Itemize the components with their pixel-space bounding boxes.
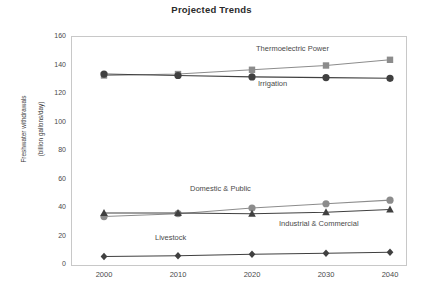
data-point-marker [387,248,394,256]
data-point-marker [323,62,329,68]
series-livestock [101,248,394,260]
chart-container: Projected Trends Freshwater withdrawals … [0,0,423,297]
data-point-marker [387,57,393,63]
series-label: Thermoelectric Power [256,44,329,53]
series-layer [100,57,394,261]
data-point-marker [386,197,393,204]
series-domestic-public [100,197,393,221]
series-label: Industrial & Commercial [279,219,359,228]
data-point-marker [174,72,181,79]
series-label: Irrigation [258,79,287,88]
data-point-marker [386,75,393,82]
data-point-marker [322,200,329,207]
series-irrigation [100,70,393,81]
data-point-marker [175,252,182,260]
data-point-marker [249,67,255,73]
series-line [104,209,390,213]
data-point-marker [323,250,330,258]
data-point-marker [248,73,255,80]
data-point-marker [249,251,256,259]
data-point-marker [386,205,394,212]
plot-area [0,0,423,297]
series-label: Domestic & Public [190,184,251,193]
data-point-marker [100,70,107,77]
series-label: Livestock [155,233,186,242]
series-line [104,252,390,256]
data-point-marker [101,253,108,261]
series-line [104,74,390,78]
data-point-marker [322,74,329,81]
series-line [104,60,390,76]
